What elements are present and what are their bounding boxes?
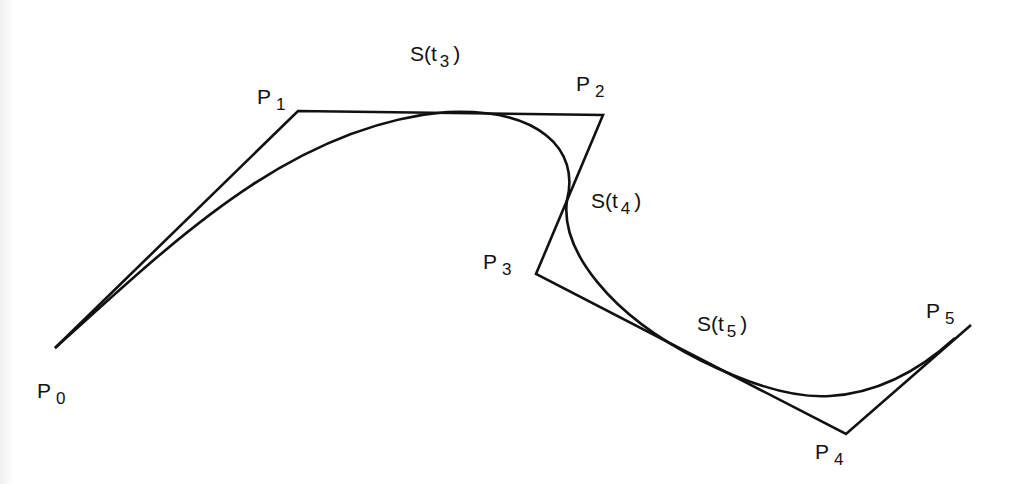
- control-polygon: [55, 111, 971, 434]
- label-p3: P3: [483, 251, 511, 272]
- label-s-t4: S(t4): [591, 190, 641, 211]
- label-p2: P2: [576, 73, 604, 94]
- label-p4: P4: [815, 441, 843, 462]
- label-p1: P1: [257, 86, 285, 107]
- label-s-t5: S(t5): [697, 313, 747, 334]
- label-p5: P5: [926, 300, 954, 321]
- label-s-t3: S(t3): [410, 43, 460, 64]
- spline-diagram: [0, 0, 1016, 484]
- label-p0: P0: [37, 380, 65, 401]
